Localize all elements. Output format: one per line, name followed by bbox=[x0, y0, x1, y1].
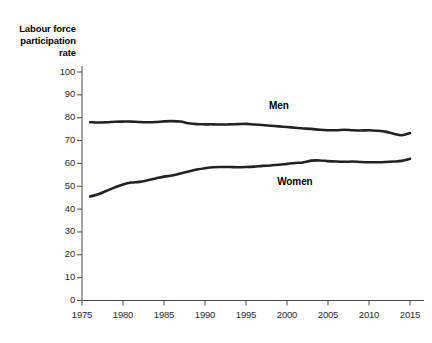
y-axis-tick-label: 100 bbox=[49, 66, 75, 77]
x-axis-tick-label: 1990 bbox=[185, 309, 225, 320]
chart-axes bbox=[77, 66, 424, 306]
y-axis-tick-label: 70 bbox=[49, 134, 75, 145]
y-axis-tick-label: 80 bbox=[49, 111, 75, 122]
x-axis-tick-label: 1985 bbox=[144, 309, 184, 320]
series-line-women bbox=[90, 159, 410, 197]
x-axis-tick-label: 2005 bbox=[308, 309, 348, 320]
x-axis-tick-label: 2015 bbox=[390, 309, 430, 320]
x-axis-tick-label: 1995 bbox=[226, 309, 266, 320]
x-axis-tick-label: 2010 bbox=[349, 309, 389, 320]
y-axis-tick-label: 90 bbox=[49, 88, 75, 99]
x-axis-tick-label: 1975 bbox=[62, 309, 102, 320]
series-label-women: Women bbox=[277, 176, 312, 187]
labour-force-participation-chart: Labour force participation rate 01020304… bbox=[0, 0, 432, 343]
y-axis-tick-label: 30 bbox=[49, 225, 75, 236]
x-axis-tick-label: 2000 bbox=[267, 309, 307, 320]
y-axis-tick-label: 50 bbox=[49, 180, 75, 191]
chart-series bbox=[90, 121, 410, 196]
series-line-men bbox=[90, 121, 410, 135]
y-axis-tick-label: 20 bbox=[49, 248, 75, 259]
y-axis-tick-label: 60 bbox=[49, 157, 75, 168]
y-axis-tick-label: 10 bbox=[49, 271, 75, 282]
series-label-men: Men bbox=[269, 100, 289, 111]
x-axis-tick-label: 1980 bbox=[103, 309, 143, 320]
y-axis-tick-label: 40 bbox=[49, 203, 75, 214]
y-axis-tick-label: 0 bbox=[49, 294, 75, 305]
plot-area bbox=[0, 0, 432, 343]
